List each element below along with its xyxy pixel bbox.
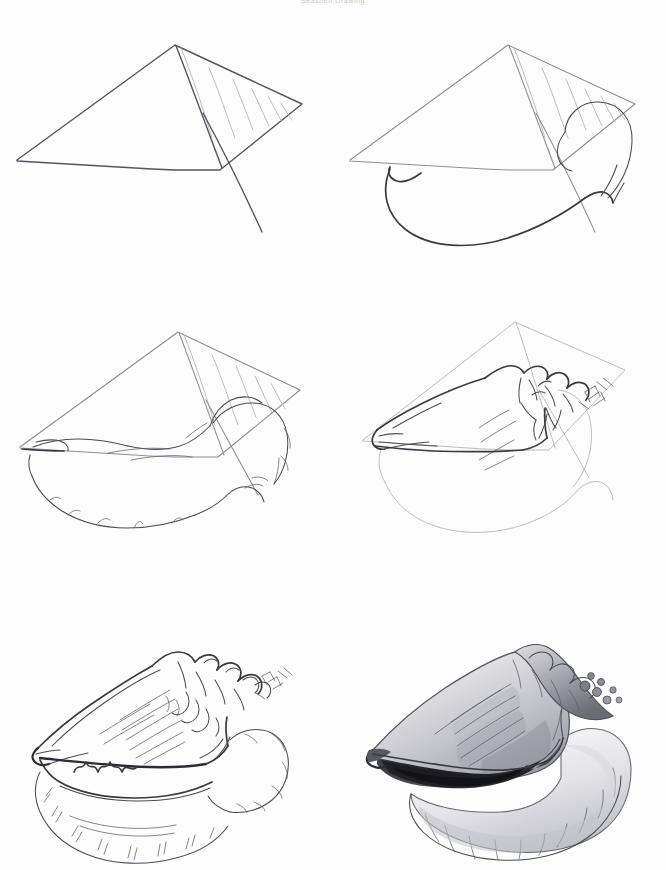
outer-lip-flare (208, 729, 288, 813)
construction-wedge (350, 45, 635, 170)
drawing-sheet: Seashell Drawing (0, 0, 666, 870)
body-outline-curve (386, 167, 624, 245)
page-caption: Seashell Drawing (0, 0, 666, 4)
tutorial-step-2 (333, 20, 666, 310)
whorl-scallops (166, 692, 219, 736)
construction-wedge (17, 45, 302, 170)
spire-knobs (519, 366, 589, 412)
outer-lip-bulb (557, 102, 632, 198)
spire-nodule-cluster (243, 668, 292, 699)
tutorial-step-5 (0, 600, 333, 870)
tutorial-step-6 (333, 600, 666, 870)
outer-lip-ragged (213, 403, 290, 484)
construction-wedge (20, 332, 300, 457)
tail-curve (206, 400, 258, 495)
spire-hatching (184, 335, 285, 425)
tutorial-step-3 (0, 310, 333, 600)
tutorial-step-4 (333, 310, 666, 600)
step-5-drawing (0, 600, 333, 870)
spire-knobs (178, 655, 262, 710)
lip-scallop-edge (36, 772, 229, 863)
aperture-line (375, 438, 547, 452)
lip-inner-tone (70, 816, 176, 836)
tutorial-step-1 (0, 20, 333, 310)
lower-body-guide (379, 390, 613, 532)
aperture-opening (40, 717, 230, 767)
body-ridge-lines (100, 690, 185, 764)
lip-notch (245, 477, 268, 488)
shell-upper-contour-dark (377, 366, 524, 430)
step-4-drawing (333, 310, 666, 600)
lower-body-ragged (29, 455, 264, 528)
step-1-drawing (0, 20, 333, 310)
shell-upper-contour (33, 397, 262, 450)
body-ridge-lines (479, 410, 516, 470)
step-6-drawing (333, 600, 666, 870)
step-3-drawing (0, 310, 333, 600)
shell-upper-contour (38, 652, 195, 748)
spire-hatching (514, 48, 625, 138)
step-2-drawing (333, 20, 666, 310)
spire-hatching (181, 48, 292, 138)
